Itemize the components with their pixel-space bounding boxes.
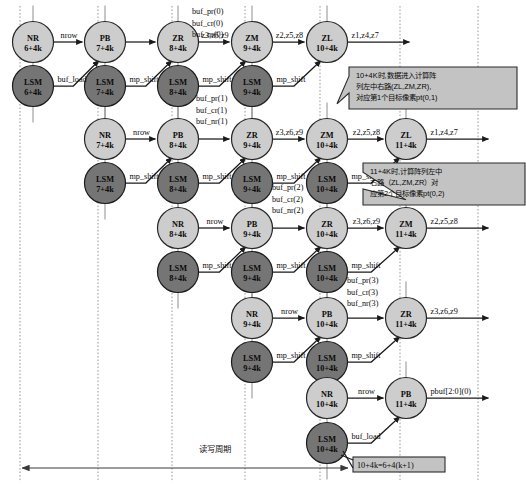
node-cycle-label: 7+4k: [96, 185, 114, 194]
node-zr-0-2: ZR8+4k: [158, 22, 199, 63]
node-cycle-label: 9+4k: [243, 185, 261, 194]
node-lsm-3-0: LSM9+4k: [232, 342, 273, 383]
node-name-label: PB: [401, 390, 412, 399]
node-cycle-label: 9+4k: [243, 274, 261, 283]
edge-label: buf_nr(1): [196, 117, 228, 126]
node-name-label: LSM: [243, 264, 261, 273]
edge-label: mp_shift: [352, 261, 382, 270]
node-zr-1-2: ZR9+4k: [232, 119, 273, 160]
node-name-label: LSM: [24, 78, 42, 87]
node-name-label: LSM: [96, 78, 114, 87]
edge-label: mp_shift: [203, 75, 233, 84]
edge-label: buf_pr(1): [196, 94, 228, 103]
node-cycle-label: 8+4k: [169, 185, 187, 194]
node-lsm-1-0: LSM7+4k: [85, 163, 126, 204]
dataflow-diagram-svg: NR6+4kPB7+4kZR8+4kZM9+4kZL10+4kLSM6+4kLS…: [0, 0, 526, 487]
edge-label: buf_nr(0): [192, 30, 224, 39]
node-cycle-label: 9+4k: [243, 364, 261, 373]
node-name-label: LSM: [318, 435, 336, 444]
node-name-label: LSM: [169, 264, 187, 273]
node-lsm-2-0: LSM8+4k: [158, 252, 199, 293]
edge-label: mp_shift: [277, 75, 307, 84]
node-name-label: NR: [99, 131, 112, 140]
node-zr-3-2: ZR11+4k: [386, 298, 427, 339]
edge-label: nrow: [133, 128, 150, 137]
node-cycle-label: 11+4k: [395, 320, 417, 329]
node-cycle-label: 10+4k: [316, 44, 338, 53]
node-name-label: ZM: [245, 34, 259, 43]
node-lsm-0-2: LSM8+4k: [158, 66, 199, 107]
node-name-label: ZM: [399, 220, 413, 229]
callout-line: 应第2个目标像素pt(0,2): [370, 189, 444, 198]
node-name-label: LSM: [96, 175, 114, 184]
node-name-label: NR: [246, 310, 259, 319]
node-name-label: ZR: [321, 220, 334, 229]
node-cycle-label: 11+4k: [395, 400, 417, 409]
equation-note-text: 10+4k=6+4(k+1): [357, 461, 414, 470]
edge-label: mp_shift: [352, 351, 382, 360]
node-zm-1-3: ZM10+4k: [307, 119, 348, 160]
equation-note: 10+4k=6+4(k+1): [341, 451, 445, 472]
edge-label: mp_shift: [277, 351, 307, 360]
node-cycle-label: 10+4k: [316, 445, 338, 454]
diagram-canvas: NR6+4kPB7+4kZR8+4kZM9+4kZL10+4kLSM6+4kLS…: [0, 0, 526, 487]
node-zm-2-3: ZM11+4k: [386, 208, 427, 249]
edge-label: buf_cr(0): [192, 19, 223, 28]
node-nr-4-0: NR10+4k: [307, 378, 348, 419]
node-cycle-label: 9+4k: [243, 320, 261, 329]
node-cycle-label: 11+4k: [395, 230, 417, 239]
edge-label: buf_pr(0): [192, 7, 224, 16]
node-nr-3-0: NR9+4k: [232, 298, 273, 339]
node-cycle-label: 8+4k: [169, 44, 187, 53]
node-name-label: ZM: [320, 131, 334, 140]
edge-label: mp_shift: [203, 172, 233, 181]
node-lsm-2-1: LSM9+4k: [232, 252, 273, 293]
node-cycle-label: 9+4k: [243, 88, 261, 97]
edge-label: buf_nr(2): [272, 206, 304, 215]
node-nr-2-0: NR8+4k: [158, 208, 199, 249]
edge-label: nrow: [61, 31, 78, 40]
node-cycle-label: 10+4k: [316, 364, 338, 373]
edge-label: mp_shift: [277, 261, 307, 270]
edge-label: mp_shift: [130, 75, 160, 84]
node-lsm-1-3: LSM10+4k: [307, 163, 348, 204]
node-pb-1-1: PB8+4k: [158, 119, 199, 160]
node-name-label: LSM: [318, 175, 336, 184]
node-name-label: PB: [322, 310, 333, 319]
node-name-label: NR: [321, 390, 334, 399]
node-lsm-2-2: LSM10+4k: [307, 252, 348, 293]
edge-label: pbuf[2:0](0): [431, 387, 472, 396]
node-cycle-label: 9+4k: [243, 141, 261, 150]
node-pb-3-1: PB10+4k: [307, 298, 348, 339]
callout-line: 列左中右路(ZL,ZM,ZR),: [356, 82, 431, 91]
node-cycle-label: 8+4k: [169, 88, 187, 97]
edge-label: z3,z6,z9: [431, 307, 458, 316]
edge-label: buf_cr(2): [272, 195, 303, 204]
node-name-label: LSM: [243, 354, 261, 363]
node-zm-0-3: ZM9+4k: [232, 22, 273, 63]
edge-label: nrow: [358, 387, 375, 396]
node-cycle-label: 10+4k: [316, 141, 338, 150]
node-cycle-label: 7+4k: [96, 88, 114, 97]
node-name-label: NR: [27, 34, 40, 43]
node-name-label: ZR: [400, 310, 413, 319]
edge-label: z1,z4,z7: [431, 128, 458, 137]
node-name-label: LSM: [243, 78, 261, 87]
node-name-label: ZR: [246, 131, 259, 140]
edge-label: mp_shift: [277, 172, 307, 181]
edge-label: buf_cr(1): [196, 106, 227, 115]
callout-line: 10+4K时,数据进入计算阵: [356, 71, 437, 80]
node-name-label: PB: [173, 131, 184, 140]
edge-label: nrow: [281, 307, 298, 316]
edge-label: z2,z5,z8: [353, 128, 380, 137]
callout-line: 对应第1个目标像素pt(0,1): [356, 93, 437, 102]
node-zr-2-2: ZR10+4k: [307, 208, 348, 249]
node-name-label: ZL: [400, 131, 412, 140]
node-lsm-0-0: LSM6+4k: [13, 66, 54, 107]
edge-label: z3,z6,z9: [276, 128, 303, 137]
node-zl-0-4: ZL10+4k: [307, 22, 348, 63]
node-name-label: ZL: [321, 34, 333, 43]
edge-label: buf_load: [352, 432, 381, 441]
node-cycle-label: 10+4k: [316, 274, 338, 283]
edge-label: buf_cr(3): [347, 288, 378, 297]
